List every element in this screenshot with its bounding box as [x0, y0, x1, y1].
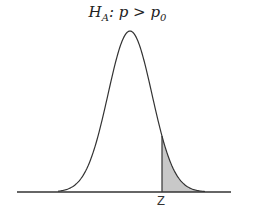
normal-curve	[58, 31, 205, 192]
z-label: Z	[157, 193, 165, 208]
normal-curve-diagram	[0, 0, 255, 218]
